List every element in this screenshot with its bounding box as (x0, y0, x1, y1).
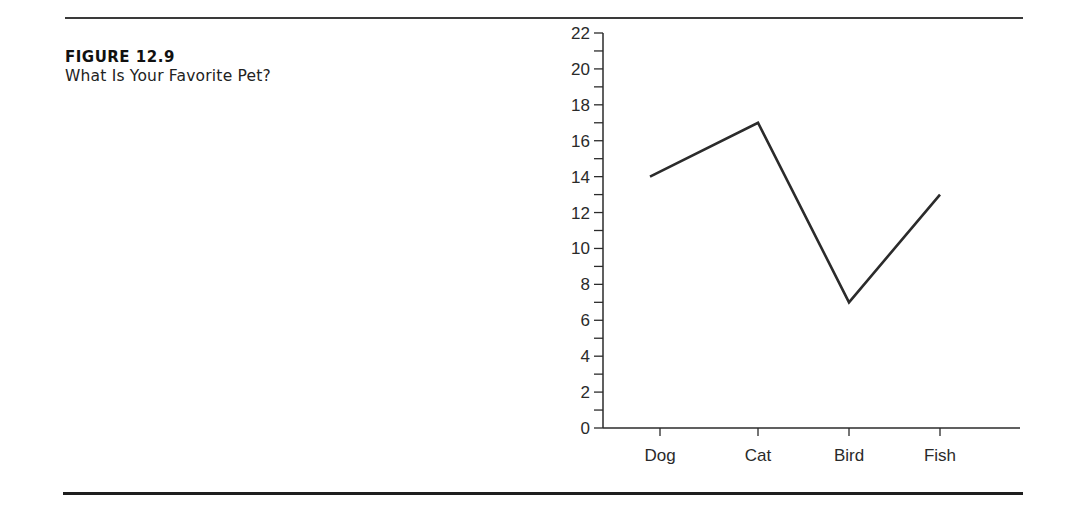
line-chart: 0246810121416182022 DogCatBirdFish (0, 0, 1075, 513)
y-axis: 0246810121416182022 (571, 24, 603, 438)
y-tick-label: 22 (571, 24, 590, 43)
y-tick-label: 16 (571, 132, 590, 151)
y-tick-label: 18 (571, 96, 590, 115)
data-series (650, 123, 940, 303)
y-tick-label: 20 (571, 60, 590, 79)
x-axis: DogCatBirdFish (603, 428, 1020, 465)
bottom-rule (63, 492, 1023, 495)
x-tick-label: Cat (745, 446, 772, 465)
y-tick-label: 0 (581, 419, 590, 438)
y-tick-label: 12 (571, 204, 590, 223)
y-tick-label: 8 (581, 275, 590, 294)
x-tick-label: Dog (644, 446, 675, 465)
y-tick-label: 6 (581, 311, 590, 330)
x-tick-label: Fish (924, 446, 956, 465)
x-tick-label: Bird (834, 446, 864, 465)
series-line (650, 123, 940, 303)
y-tick-label: 10 (571, 239, 590, 258)
y-tick-label: 2 (581, 383, 590, 402)
y-tick-label: 4 (581, 347, 590, 366)
y-tick-label: 14 (571, 168, 590, 187)
